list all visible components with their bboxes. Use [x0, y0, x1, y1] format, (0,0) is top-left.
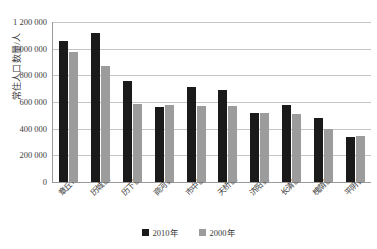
- bar-2010[interactable]: [155, 107, 164, 182]
- legend-label: 2000年: [210, 226, 236, 238]
- y-axis-tick-label: 800 000: [19, 71, 47, 80]
- bar-group: [148, 22, 180, 182]
- legend-item[interactable]: 2000年: [199, 226, 236, 238]
- x-axis-label-cell: 商河县: [147, 184, 179, 222]
- legend-label: 2010年: [153, 226, 179, 238]
- bar-2000[interactable]: [260, 113, 269, 182]
- y-axis-tick-labels: 0200 000400 000600 000800 0001 000 0001 …: [0, 22, 50, 182]
- y-axis-tick-label: 200 000: [19, 151, 47, 160]
- y-axis-tick-label: 400 000: [19, 124, 47, 133]
- y-axis-tick-label: 600 000: [19, 98, 47, 107]
- bar-group: [117, 22, 149, 182]
- bar-group: [180, 22, 212, 182]
- x-axis-label-cell: 市中区: [179, 184, 211, 222]
- y-axis-tick-label: 1 200 000: [13, 18, 47, 27]
- bar-2000[interactable]: [356, 136, 365, 182]
- bar-2010[interactable]: [314, 118, 323, 182]
- x-axis-label-cell: 天桥区: [211, 184, 243, 222]
- bar-2000[interactable]: [101, 66, 110, 182]
- bar-2000[interactable]: [165, 105, 174, 182]
- bar-group: [244, 22, 276, 182]
- y-axis-tick-label: 0: [43, 178, 47, 187]
- bar-group: [53, 22, 85, 182]
- legend-swatch-icon: [142, 229, 149, 236]
- x-axis-label-cell: 章丘市: [52, 184, 84, 222]
- x-axis-label-cell: 长清区: [275, 184, 307, 222]
- x-axis-label-cell: 槐荫区: [306, 184, 338, 222]
- bar-2000[interactable]: [197, 106, 206, 182]
- bars-layer: [53, 22, 371, 182]
- bar-group: [276, 22, 308, 182]
- plot-area: [52, 22, 371, 183]
- bar-2010[interactable]: [91, 33, 100, 182]
- bar-2010[interactable]: [250, 113, 259, 182]
- bar-2010[interactable]: [59, 41, 68, 182]
- bar-2010[interactable]: [123, 81, 132, 182]
- bar-2000[interactable]: [228, 106, 237, 182]
- bar-group: [212, 22, 244, 182]
- population-bar-chart: 常住人口数量/人 0200 000400 000600 000800 0001 …: [0, 0, 377, 249]
- bar-2000[interactable]: [133, 104, 142, 182]
- bar-group: [85, 22, 117, 182]
- bar-2000[interactable]: [69, 52, 78, 182]
- x-axis-label-cell: 历下区: [116, 184, 148, 222]
- x-axis-label-cell: 历城区: [84, 184, 116, 222]
- bar-2010[interactable]: [218, 90, 227, 182]
- bar-2010[interactable]: [187, 87, 196, 182]
- y-axis-tick-label: 1 000 000: [13, 44, 47, 53]
- bar-2000[interactable]: [324, 129, 333, 182]
- x-axis-label-cell: 平阴县: [338, 184, 370, 222]
- bar-group: [307, 22, 339, 182]
- bar-group: [339, 22, 371, 182]
- x-axis-category-labels: 章丘市历城区历下区商河县市中区天桥区济阳县长清区槐荫区平阴县: [52, 184, 370, 222]
- bar-2010[interactable]: [346, 137, 355, 182]
- legend-item[interactable]: 2010年: [142, 226, 179, 238]
- bar-2000[interactable]: [292, 114, 301, 182]
- legend-swatch-icon: [199, 229, 206, 236]
- bar-2010[interactable]: [282, 105, 291, 182]
- x-axis-label-cell: 济阳县: [243, 184, 275, 222]
- chart-legend: 2010年2000年: [0, 226, 377, 238]
